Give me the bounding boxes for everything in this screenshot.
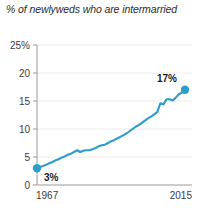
chart-figure: % of newlyweds who are intermarried 0510… [0,0,200,213]
y-axis-tick-label: 15 [19,96,31,107]
line-chart-plot: 0510152025% 3%17% 19672015 [0,0,200,213]
y-axis-ticks [33,45,37,185]
start-point-marker [33,164,41,172]
x-axis-tick-labels: 19672015 [36,190,192,201]
end-point-marker [181,86,189,94]
y-axis-tick-label: 5 [24,152,30,163]
y-axis-tick-label: 25% [10,40,30,51]
data-point-annotations: 3%17% [44,73,177,183]
y-axis-tick-labels: 0510152025% [10,40,30,191]
end-point-label: 17% [157,73,177,84]
x-axis-tick-label: 1967 [36,190,59,201]
start-point-label: 3% [44,172,59,183]
y-axis-tick-label: 10 [19,124,31,135]
y-axis-tick-label: 0 [24,180,30,191]
y-axis-tick-label: 20 [19,68,31,79]
x-axis-tick-label: 2015 [170,190,193,201]
